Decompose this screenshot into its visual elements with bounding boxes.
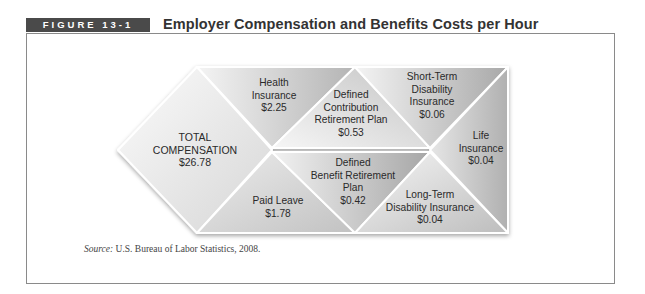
label-total-compensation: TOTAL COMPENSATION $26.78 bbox=[153, 131, 237, 169]
source-text: U.S. Bureau of Labor Statistics, 2008. bbox=[113, 244, 260, 254]
label-short-term-disability: Short-Term Disability Insurance $0.06 bbox=[407, 71, 457, 121]
label-health-insurance: Health Insurance $2.25 bbox=[252, 77, 297, 115]
label-long-term-disability: Long-Term Disability Insurance $0.04 bbox=[386, 189, 474, 227]
source-note: Source: U.S. Bureau of Labor Statistics,… bbox=[84, 244, 260, 254]
label-life-insurance: Life Insurance $0.04 bbox=[459, 130, 504, 168]
label-defined-contribution: Defined Contribution Retirement Plan $0.… bbox=[314, 89, 387, 139]
label-defined-benefit: Defined Benefit Retirement Plan $0.42 bbox=[311, 157, 395, 207]
label-paid-leave: Paid Leave $1.78 bbox=[253, 195, 304, 220]
source-prefix: Source: bbox=[84, 244, 113, 254]
